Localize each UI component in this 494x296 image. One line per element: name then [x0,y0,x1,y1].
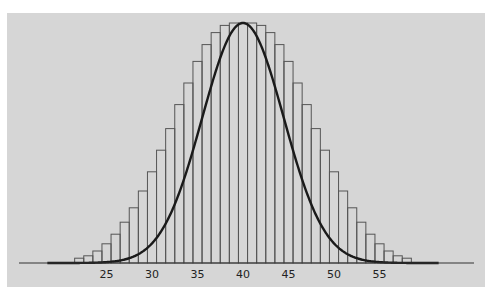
histogram-bar [229,23,238,263]
chart-panel: 25303540455055 [7,13,485,287]
histogram-bar [375,244,384,263]
histogram-bar [220,25,229,263]
histogram-bar [311,129,320,263]
histogram-bar [329,172,338,263]
x-tick-label: 35 [191,268,205,281]
x-tick-label: 30 [145,268,159,281]
histogram-bar [147,172,156,263]
histogram-bar [93,251,102,263]
histogram-bar [238,23,247,263]
histogram-bar [202,45,211,263]
x-tick-label: 55 [373,268,387,281]
histogram-bar [266,33,275,263]
histogram-bar [366,234,375,263]
histogram-bar [275,45,284,263]
histogram-bar [157,150,166,263]
histogram-bar [284,61,293,263]
x-tick-label: 45 [282,268,296,281]
histogram-chart: 25303540455055 [7,13,485,287]
normal-curve [47,23,438,263]
x-tick-label: 50 [327,268,341,281]
histogram-bar [166,129,175,263]
histogram-bar [102,244,111,263]
histogram-bar [257,25,266,263]
histogram-bar [248,23,257,263]
histogram-bar [120,222,129,263]
x-tick-label: 40 [236,268,250,281]
histogram-bar [211,33,220,263]
histogram-bar [320,150,329,263]
histogram-bar [357,222,366,263]
histogram-bar [193,61,202,263]
histogram-bar [384,251,393,263]
x-axis-ticks: 25303540455055 [100,268,387,281]
histogram-bar [111,234,120,263]
x-tick-label: 25 [100,268,114,281]
histogram-bars [75,23,412,263]
